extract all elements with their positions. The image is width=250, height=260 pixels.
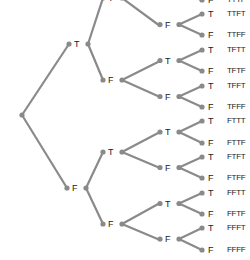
tree-edge — [179, 204, 202, 215]
node-level3 — [157, 58, 162, 63]
leaf-label: F — [208, 139, 214, 148]
tree-edge — [179, 86, 202, 97]
node-level2 — [100, 149, 105, 154]
tree-edge — [122, 224, 160, 240]
branch-label: T — [108, 0, 114, 3]
leaf-label: T — [208, 46, 214, 55]
leaf-node — [199, 140, 204, 145]
tree-edge — [179, 97, 202, 108]
tree-edge — [179, 193, 202, 204]
tree-edge — [179, 132, 202, 143]
node-level3 — [157, 94, 162, 99]
branch-label: F — [165, 235, 171, 244]
node-level3 — [157, 236, 162, 241]
leaf-label: F — [208, 103, 214, 112]
outcome-label: FTTT — [227, 117, 245, 125]
leaf-node — [199, 118, 204, 123]
leaf-label: F — [208, 31, 214, 40]
leaf-label: F — [208, 0, 214, 5]
branch-label: F — [72, 184, 78, 193]
outcome-label: FFTF — [227, 210, 245, 218]
outcome-label: TTTF — [227, 0, 245, 4]
root-node — [19, 112, 24, 117]
branch-label: F — [108, 220, 114, 229]
outcome-label: FTFT — [227, 153, 245, 161]
leaf-node — [199, 211, 204, 216]
outcome-label: FFFT — [227, 224, 245, 232]
tree-edge — [179, 157, 202, 168]
leaf-node — [199, 68, 204, 73]
node-level2 — [100, 221, 105, 226]
branch-label: F — [165, 163, 171, 172]
node-level3 — [157, 22, 162, 27]
edge-root-to-T — [22, 44, 69, 115]
tree-edge — [179, 50, 202, 61]
tree-edge — [179, 61, 202, 72]
branch-label: F — [108, 76, 114, 85]
node-level3 — [157, 165, 162, 170]
leaf-label: F — [208, 174, 214, 183]
branch-label: T — [165, 56, 171, 65]
leaf-node — [199, 154, 204, 159]
tree-edge — [122, 0, 160, 26]
tree-edge — [179, 228, 202, 239]
branch-label: F — [165, 92, 171, 101]
outcome-label: FTFF — [227, 174, 245, 182]
leaf-node — [199, 247, 204, 252]
branch-label: F — [165, 20, 171, 29]
leaf-node — [199, 104, 204, 109]
leaf-label: F — [208, 210, 214, 219]
leaf-label: F — [208, 246, 214, 255]
tree-edge — [122, 152, 160, 168]
branch-label: T — [165, 199, 171, 208]
outcome-label: TFTT — [227, 46, 245, 54]
outcome-label: TFFT — [227, 82, 245, 90]
leaf-label: F — [208, 67, 214, 76]
outcome-label: TTFF — [227, 31, 245, 39]
leaf-node — [199, 175, 204, 180]
node-level3 — [157, 129, 162, 134]
leaf-node — [199, 0, 204, 3]
leaf-node — [199, 190, 204, 195]
leaf-label: T — [208, 224, 214, 233]
tree-edge — [179, 14, 202, 25]
outcome-label: TFTF — [227, 67, 245, 75]
outcome-label: FFTT — [227, 189, 245, 197]
outcome-label: FTTF — [227, 139, 245, 147]
tree-edge — [122, 132, 160, 152]
outcome-label: TTFT — [227, 10, 245, 18]
tree-edge — [122, 61, 160, 80]
leaf-node — [199, 32, 204, 37]
tree-edge — [122, 80, 160, 97]
tree-edge — [122, 203, 160, 224]
branch-label: T — [108, 148, 114, 157]
edge-root-to-F — [22, 115, 67, 188]
leaf-node — [199, 11, 204, 16]
leaf-label: T — [208, 153, 214, 162]
tree-edge — [179, 25, 202, 36]
leaf-label: T — [208, 82, 214, 91]
tree-edge — [179, 121, 202, 132]
leaf-label: T — [208, 189, 214, 198]
node-level2 — [100, 77, 105, 82]
tree-edge — [86, 152, 103, 188]
tree-edge — [179, 239, 202, 250]
tree-edge — [179, 168, 202, 179]
outcome-label: TFFF — [227, 103, 245, 111]
branch-label: T — [165, 128, 171, 137]
tree-edge — [86, 188, 103, 224]
node-level1-F — [64, 185, 69, 190]
leaf-node — [199, 225, 204, 230]
node-level3 — [157, 201, 162, 206]
tree-edge — [88, 44, 103, 80]
node-level1-T — [66, 41, 71, 46]
leaf-label: T — [208, 10, 214, 19]
leaf-node — [199, 83, 204, 88]
branch-label: T — [74, 40, 80, 49]
tree-edge — [88, 0, 103, 44]
outcome-label: FFFF — [227, 246, 245, 254]
leaf-node — [199, 47, 204, 52]
leaf-label: T — [208, 117, 214, 126]
